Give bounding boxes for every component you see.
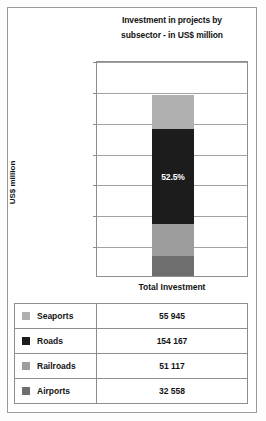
y-axis-tick-mark [93,185,97,186]
legend-series-name: Airports [37,386,70,396]
y-axis-tick-mark [93,247,97,248]
legend-table-row: Seaports55 945 [15,304,247,329]
legend-series-value: 154 167 [97,329,247,353]
y-axis-tick-mark [93,216,97,217]
bar-segment-airports[interactable] [152,256,194,276]
y-axis-tick-mark [93,124,97,125]
gridline [97,93,247,94]
legend-table-row: Railroads51 117 [15,354,247,379]
legend-swatch-icon [22,312,30,320]
legend-series-name: Seaports [37,311,73,321]
legend-swatch-icon [22,387,30,395]
y-axis-tick-mark [93,155,97,156]
legend-swatch-icon [22,337,30,345]
legend-series-name: Roads [37,336,63,346]
legend-series-value: 51 117 [97,354,247,378]
legend-table-row: Airports32 558 [15,379,247,404]
bar-segment-percentage-label: 52.5% [161,172,185,182]
y-axis-tick-mark [93,62,97,63]
legend-cell-name: Railroads [15,354,97,378]
bar-segment-railroads[interactable] [152,224,194,256]
legend-series-value: 55 945 [97,304,247,328]
legend-table-row: Roads154 167 [15,329,247,354]
legend-series-value: 32 558 [97,379,247,403]
chart-title-line-2: subsector - in US$ million [96,28,248,43]
chart-title: Investment in projects by subsector - in… [96,13,248,43]
x-axis-category-label: Total Investment [96,282,248,292]
gridline [97,62,247,63]
legend-cell-name: Seaports [15,304,97,328]
legend-cell-name: Roads [15,329,97,353]
legend-value-table: Seaports55 945Roads154 167Railroads51 11… [14,303,248,404]
legend-swatch-icon [22,362,30,370]
y-axis-title: US$ million [8,148,17,218]
figure-page: Investment in projects by subsector - in… [0,0,266,421]
chart-title-line-1: Investment in projects by [96,13,248,28]
bar-segment-roads[interactable]: 52.5% [152,129,194,224]
stacked-bar-total-investment[interactable]: 52.5% [152,95,194,276]
y-axis-tick-mark [93,93,97,94]
bar-segment-seaports[interactable] [152,95,194,130]
legend-cell-name: Airports [15,379,97,403]
legend-series-name: Railroads [37,361,76,371]
plot-area: 350 000300 000250 000200 000150 000100 0… [96,61,248,277]
